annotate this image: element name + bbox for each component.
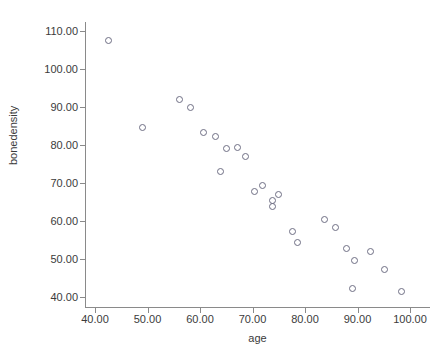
- data-point: [294, 239, 301, 246]
- data-point: [200, 129, 207, 136]
- y-axis-tick-label: 40.00: [26, 291, 78, 303]
- y-axis-tick-label: 80.00: [26, 139, 78, 151]
- data-point: [332, 224, 339, 231]
- data-point: [398, 288, 405, 295]
- scatter-plot: 40.0050.0060.0070.0080.0090.00100.00110.…: [0, 0, 448, 364]
- y-axis-tick-label: 60.00: [26, 215, 78, 227]
- data-point: [223, 145, 230, 152]
- y-axis-tick-label: 110.00: [26, 25, 78, 37]
- data-point: [289, 228, 296, 235]
- data-point: [321, 216, 328, 223]
- y-axis-tick: [80, 259, 85, 260]
- y-axis-tick: [80, 183, 85, 184]
- data-point: [351, 257, 358, 264]
- y-axis-tick: [80, 297, 85, 298]
- data-point: [234, 144, 241, 151]
- y-axis-line: [85, 22, 86, 307]
- data-point: [251, 188, 258, 195]
- data-point: [139, 124, 146, 131]
- data-point: [259, 182, 266, 189]
- y-axis-title: bonedensity: [7, 106, 19, 165]
- data-point: [275, 191, 282, 198]
- y-axis-tick: [80, 31, 85, 32]
- data-point: [105, 37, 112, 44]
- y-axis-tick-label: 100.00: [26, 63, 78, 75]
- data-point: [343, 245, 350, 252]
- data-point: [176, 96, 183, 103]
- data-point: [367, 248, 374, 255]
- data-point: [381, 266, 388, 273]
- y-axis-tick: [80, 145, 85, 146]
- y-axis-tick-label: 90.00: [26, 101, 78, 113]
- data-point: [212, 133, 219, 140]
- y-axis-tick-label: 70.00: [26, 177, 78, 189]
- x-axis-title: age: [85, 332, 430, 344]
- data-point: [242, 153, 249, 160]
- y-axis-tick: [80, 69, 85, 70]
- data-point: [349, 285, 356, 292]
- data-point: [217, 168, 224, 175]
- y-axis-tick: [80, 221, 85, 222]
- x-axis-line: [85, 307, 430, 308]
- data-point: [187, 104, 194, 111]
- data-point: [269, 203, 276, 210]
- y-axis-tick-label: 50.00: [26, 253, 78, 265]
- x-axis-tick-label: 100.00: [375, 313, 445, 325]
- y-axis-tick: [80, 107, 85, 108]
